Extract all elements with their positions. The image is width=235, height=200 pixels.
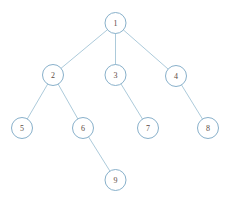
tree-node-1[interactable]: 1: [105, 13, 126, 34]
tree-node-label-1: 1: [114, 19, 118, 28]
tree-node-label-6: 6: [81, 124, 85, 133]
tree-node-5[interactable]: 5: [12, 118, 33, 139]
tree-node-8[interactable]: 8: [198, 118, 219, 139]
tree-edge-6-9: [89, 137, 110, 171]
tree-node-2[interactable]: 2: [43, 65, 64, 86]
tree-node-label-9: 9: [114, 176, 118, 185]
tree-node-9[interactable]: 9: [105, 170, 126, 191]
tree-edge-2-6: [58, 84, 78, 119]
tree-node-label-7: 7: [146, 124, 150, 133]
tree-diagram: 123456789: [0, 0, 235, 200]
tree-node-label-8: 8: [206, 124, 210, 133]
tree-node-4[interactable]: 4: [166, 66, 187, 87]
node-layer: 123456789: [12, 13, 219, 191]
tree-edge-3-7: [121, 84, 143, 119]
tree-node-3[interactable]: 3: [105, 65, 126, 86]
tree-node-label-4: 4: [174, 72, 178, 81]
tree-node-7[interactable]: 7: [138, 118, 159, 139]
tree-node-label-2: 2: [51, 71, 55, 80]
tree-edge-1-2: [61, 30, 107, 69]
tree-node-6[interactable]: 6: [73, 118, 94, 139]
tree-node-label-3: 3: [114, 71, 118, 80]
edge-layer: [27, 30, 202, 171]
tree-edge-4-8: [182, 85, 203, 119]
tree-edge-1-4: [123, 30, 168, 69]
tree-diagram-canvas: 123456789: [0, 0, 235, 200]
tree-edge-2-5: [27, 84, 47, 119]
tree-node-label-5: 5: [20, 124, 24, 133]
